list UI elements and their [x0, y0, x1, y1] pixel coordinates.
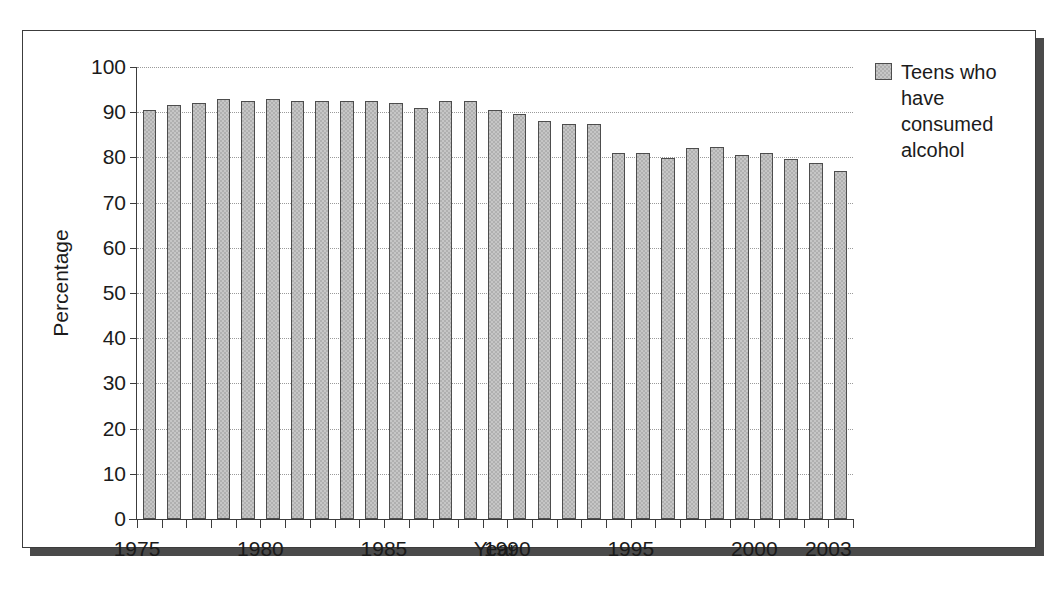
bar — [661, 158, 675, 519]
x-axis-tick — [236, 519, 237, 528]
bar — [784, 159, 798, 519]
y-axis-tick-label: 60 — [103, 236, 126, 260]
bar — [291, 101, 305, 519]
y-axis-tick — [130, 383, 137, 384]
x-axis-tick-label: 1985 — [361, 537, 408, 561]
x-axis-tick — [655, 519, 656, 528]
x-axis-tick — [335, 519, 336, 528]
x-axis-tick — [384, 519, 385, 528]
legend-label: Teens who have consumed alcohol — [901, 59, 1031, 163]
bar — [834, 171, 848, 519]
x-axis-tick — [680, 519, 681, 528]
x-axis-tick — [310, 519, 311, 528]
bar — [686, 148, 700, 519]
bar — [414, 108, 428, 519]
bar — [143, 110, 157, 519]
bar — [241, 101, 255, 519]
y-axis-tick — [130, 112, 137, 113]
bar — [389, 103, 403, 519]
x-axis-tick — [532, 519, 533, 528]
bar — [266, 99, 280, 519]
bar — [562, 124, 576, 520]
y-axis-tick — [130, 157, 137, 158]
x-axis-tick-label: 1975 — [114, 537, 161, 561]
x-axis-tick-label: 1995 — [607, 537, 654, 561]
bar — [612, 153, 626, 519]
y-axis-tick — [130, 338, 137, 339]
y-axis-tick-label: 10 — [103, 462, 126, 486]
x-axis-tick-label: 1980 — [237, 537, 284, 561]
y-axis-tick-label: 30 — [103, 371, 126, 395]
bar — [192, 103, 206, 519]
x-axis-tick-label: 1990 — [484, 537, 531, 561]
bar — [710, 147, 724, 519]
bar — [809, 163, 823, 519]
y-axis-tick — [130, 67, 137, 68]
x-axis-tick — [828, 519, 829, 528]
x-axis-tick — [433, 519, 434, 528]
x-axis-tick — [606, 519, 607, 528]
y-axis-tick-label: 70 — [103, 191, 126, 215]
bar — [587, 124, 601, 520]
x-axis-tick — [409, 519, 410, 528]
bar — [439, 101, 453, 519]
x-axis-tick — [705, 519, 706, 528]
bar — [365, 101, 379, 519]
legend-swatch-icon — [875, 63, 892, 80]
x-axis-tick — [754, 519, 755, 528]
y-axis-tick-label: 40 — [103, 326, 126, 350]
x-axis-tick — [458, 519, 459, 528]
bar — [538, 121, 552, 519]
x-axis-tick-label: 2003 — [805, 537, 852, 561]
bar — [488, 110, 502, 519]
y-axis-tick-label: 80 — [103, 145, 126, 169]
x-axis-tick — [359, 519, 360, 528]
bar — [760, 153, 774, 519]
bar — [167, 105, 181, 519]
y-axis-tick-label: 20 — [103, 417, 126, 441]
bar — [340, 101, 354, 519]
y-axis-title: Percentage — [49, 229, 73, 336]
x-axis-tick-label: 2000 — [731, 537, 778, 561]
gridline — [137, 67, 853, 68]
y-axis-tick — [130, 293, 137, 294]
x-axis-tick — [285, 519, 286, 528]
y-axis-tick-label: 90 — [103, 100, 126, 124]
plot-area: 0102030405060708090100 19751980198519901… — [137, 67, 853, 519]
bar — [217, 99, 231, 519]
bar — [735, 155, 749, 519]
y-axis-tick — [130, 519, 137, 520]
x-axis-tick — [853, 519, 854, 528]
x-axis-tick — [186, 519, 187, 528]
x-axis-tick — [581, 519, 582, 528]
y-axis-tick — [130, 248, 137, 249]
x-axis-tick — [137, 519, 138, 528]
chart-legend: Teens who have consumed alcohol — [875, 59, 1031, 163]
x-axis-tick — [557, 519, 558, 528]
x-axis-tick — [211, 519, 212, 528]
y-axis-tick-label: 100 — [91, 55, 126, 79]
bar — [464, 101, 478, 519]
x-axis-line — [129, 519, 853, 520]
x-axis-tick — [483, 519, 484, 528]
y-axis-tick — [130, 429, 137, 430]
x-axis-tick — [260, 519, 261, 528]
bar — [513, 114, 527, 519]
chart-figure: Percentage Year 0102030405060708090100 1… — [0, 0, 1060, 592]
y-axis-tick — [130, 474, 137, 475]
x-axis-tick — [631, 519, 632, 528]
x-axis-tick — [162, 519, 163, 528]
chart-frame: Percentage Year 0102030405060708090100 1… — [22, 30, 1036, 548]
x-axis-tick — [507, 519, 508, 528]
x-axis-tick — [804, 519, 805, 528]
y-axis-tick-label: 0 — [114, 507, 126, 531]
y-axis-tick — [130, 203, 137, 204]
x-axis-tick — [779, 519, 780, 528]
bar — [315, 101, 329, 519]
y-axis-tick-label: 50 — [103, 281, 126, 305]
bar — [636, 153, 650, 519]
x-axis-tick — [730, 519, 731, 528]
